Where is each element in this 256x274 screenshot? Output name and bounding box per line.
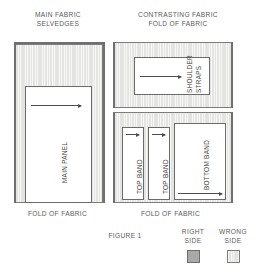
left-group-footer: FOLD OF FABRIC [5,209,110,218]
upper-block-edge-right [231,42,233,108]
top-band-2-grain-arrow [152,134,165,135]
top-band-1-label: TOP BAND [136,159,143,194]
main-panel-grain-arrow [31,105,81,106]
selvedge-edge-left [14,42,16,203]
figure-caption: FIGURE 1 [95,231,155,240]
right-group-header: CONTRASTING FABRIC FOLD OF FABRIC [108,10,248,28]
lower-block-edge-left [113,112,115,203]
upper-block-edge-left [113,42,115,108]
wrong-side-swatch [227,250,240,263]
selvedge-edge-right [103,42,105,203]
shoulder-straps-label-line1: SHOULDER [186,55,193,93]
selvedge-edge-top [14,42,105,44]
shoulder-straps-grain-arrow [140,76,181,77]
left-group-header: MAIN FABRIC SELVEDGES [8,10,108,28]
legend-label-right-side: RIGHT SIDE [173,227,213,245]
legend-label-wrong-side: WRONG SIDE [212,227,254,245]
top-band-2-label: TOP BAND [162,159,169,194]
shoulder-straps-label-line2: STRAPS [195,66,202,93]
bottom-band-piece [174,123,226,200]
bottom-band-grain-arrow [178,193,222,194]
right-side-swatch [187,250,200,263]
bottom-band-label: BOTTOM BAND [203,140,210,190]
top-band-1-grain-arrow [126,134,139,135]
lower-block-edge-right [231,112,233,203]
main-panel-label: MAIN PANEL [61,142,68,183]
right-group-footer: FOLD OF FABRIC [118,209,223,218]
